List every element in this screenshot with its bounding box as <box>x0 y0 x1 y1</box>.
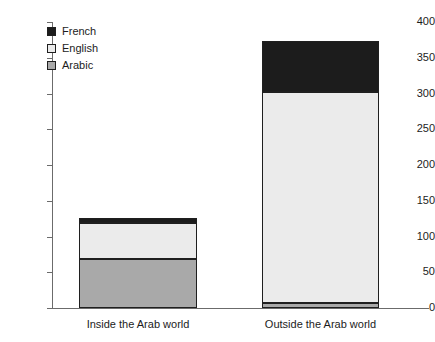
bar-segment-french <box>262 41 379 92</box>
legend-label: English <box>62 43 98 54</box>
legend-swatch-icon <box>47 61 56 70</box>
legend-item: French <box>47 24 98 39</box>
legend-swatch-icon <box>47 44 56 53</box>
bar-segment-french <box>79 218 197 223</box>
category-label: Inside the Arab world <box>87 318 190 330</box>
stacked-bar-chart: 050100150200250300350400 Inside the Arab… <box>0 0 435 342</box>
legend: FrenchEnglishArabic <box>47 24 98 75</box>
legend-swatch-icon <box>47 27 56 36</box>
legend-item: Arabic <box>47 58 98 73</box>
x-axis-line <box>52 308 429 309</box>
bar-segment-arabic <box>79 259 197 308</box>
category-label: Outside the Arab world <box>265 318 376 330</box>
legend-label: French <box>62 26 96 37</box>
bar-segment-english <box>79 223 197 259</box>
bar-segment-english <box>262 92 379 303</box>
legend-label: Arabic <box>62 60 93 71</box>
bars-layer <box>52 22 429 308</box>
bar-segment-arabic <box>262 303 379 308</box>
legend-item: English <box>47 41 98 56</box>
bar-2 <box>262 22 379 308</box>
